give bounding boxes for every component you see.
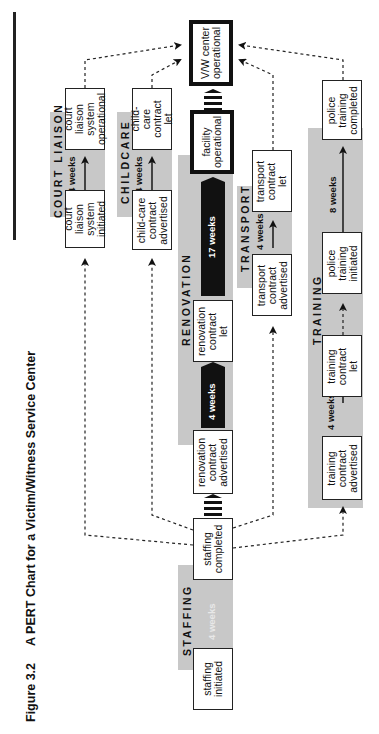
node-police-training-completed: police training completed <box>322 80 362 140</box>
node-staffing-completed: staffing completed <box>193 518 233 580</box>
node-childcare-contract-advertised: child-care contract advertised <box>132 190 172 250</box>
node-court-liaison-operational: court liaison system operational <box>65 88 105 150</box>
duration-court: 4 weeks <box>66 157 77 193</box>
duration-staffing: 4 weeks <box>206 604 217 640</box>
phase-label-staffing: STAFFING <box>181 584 193 656</box>
duration-training: 4 weeks <box>325 394 336 430</box>
node-court-liaison-initiated: court liaison system initiated <box>65 190 105 248</box>
node-training-contract-let: training contract let <box>322 335 362 397</box>
node-transport-contract-advertised: transport contract advertised <box>252 254 292 316</box>
duration-renovation-short: 4 weeks <box>206 384 217 420</box>
node-facility-operational: facility operational <box>190 110 234 174</box>
duration-childcare: 4 weeks <box>133 157 144 193</box>
duration-renovation-long: 17 weeks <box>206 216 217 258</box>
node-staffing-initiated: staffing initiated <box>193 648 233 710</box>
node-police-training-initiated: police training initiated <box>322 232 362 294</box>
node-renovation-contract-advertised: renovation contract advertised <box>193 430 233 494</box>
node-renovation-contract-let: renovation contract let <box>193 300 233 362</box>
duration-transport: 4 weeks <box>254 214 265 250</box>
node-training-contract-advertised: training contract advertised <box>322 436 362 500</box>
node-transport-contract-let: transport contract let <box>252 150 292 212</box>
phase-label-renovation: RENOVATION <box>180 253 192 346</box>
node-childcare-contract-let: child-care contract let <box>132 88 172 150</box>
duration-police: 8 weeks <box>327 177 338 213</box>
phase-label-transport: TRANSPORT <box>239 184 251 272</box>
node-vw-center-operational: V/W center operational <box>189 20 233 86</box>
